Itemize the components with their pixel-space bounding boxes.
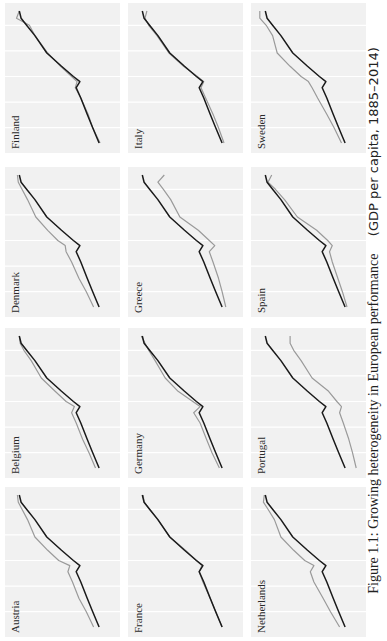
panel-label: Italy	[132, 129, 144, 149]
panel-label: Germany	[132, 433, 144, 474]
panel-label: Belgium	[9, 436, 21, 474]
panel-label: France	[132, 603, 144, 633]
panel-belgium: Belgium	[5, 328, 120, 478]
panel-label: Spain	[255, 288, 267, 313]
panel-spain: Spain	[251, 167, 366, 317]
figure-caption: Figure 1.1: Growing heterogeneity in Eur…	[366, 0, 382, 641]
panel-label: Portugal	[255, 437, 267, 474]
panel-plot	[251, 487, 366, 637]
panel-france: France	[128, 487, 243, 637]
panel-portugal: Portugal	[251, 328, 366, 478]
caption-sub: (GDP per capita, 1885–2014)	[366, 47, 381, 236]
panel-plot	[128, 328, 243, 478]
panel-plot	[5, 167, 120, 317]
panel-plot	[251, 167, 366, 317]
panel-label: Denmark	[9, 272, 21, 313]
panel-label: Netherlands	[255, 580, 267, 633]
panel-label: Greece	[132, 282, 144, 313]
panel-germany: Germany	[128, 328, 243, 478]
caption-main: Figure 1.1: Growing heterogeneity in Eur…	[366, 254, 381, 594]
panel-plot	[251, 3, 366, 153]
panel-sweden: Sweden	[251, 3, 366, 153]
figure: AustriaBelgiumDenmarkFinlandFranceGerman…	[0, 0, 387, 641]
panel-austria: Austria	[5, 487, 120, 637]
panel-label: Sweden	[255, 114, 267, 149]
panel-plot	[251, 328, 366, 478]
panel-italy: Italy	[128, 3, 243, 153]
panel-plot	[5, 3, 120, 153]
panel-plot	[128, 3, 243, 153]
panel-plot	[5, 328, 120, 478]
panel-netherlands: Netherlands	[251, 487, 366, 637]
panel-label: Austria	[9, 601, 21, 633]
panel-label: Finland	[9, 115, 21, 149]
panel-greece: Greece	[128, 167, 243, 317]
panel-plot	[128, 487, 243, 637]
panel-plot	[5, 487, 120, 637]
panel-denmark: Denmark	[5, 167, 120, 317]
panel-finland: Finland	[5, 3, 120, 153]
panel-plot	[128, 167, 243, 317]
